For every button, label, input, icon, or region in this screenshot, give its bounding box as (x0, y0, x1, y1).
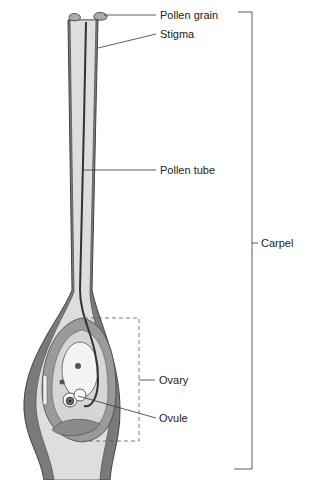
label-carpel: Carpel (261, 237, 293, 249)
pollen-grain-right (94, 12, 107, 20)
label-ovary: Ovary (159, 374, 188, 386)
carpel-bracket (234, 12, 252, 469)
nucleus-1 (75, 363, 81, 369)
ovule-dot (69, 400, 71, 402)
label-pollen-grain: Pollen grain (160, 9, 218, 21)
label-ovule: Ovule (159, 412, 188, 424)
integument-slit (43, 375, 47, 405)
label-pollen-tube: Pollen tube (160, 164, 215, 176)
ovule-cell-2 (74, 389, 86, 401)
pollen-grain-left (69, 13, 80, 20)
label-stigma: Stigma (160, 28, 194, 40)
leader-stigma (98, 34, 156, 48)
nucleus-2 (60, 380, 65, 385)
